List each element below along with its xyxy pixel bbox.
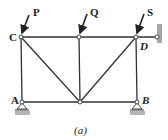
load-arrow-S	[137, 14, 144, 33]
node-bottom-mid	[78, 100, 82, 104]
load-arrow-P	[22, 15, 29, 33]
member-diag-C	[21, 37, 80, 102]
truss-diagram: P Q S C D A B (a)	[0, 0, 168, 140]
load-arrow-Q	[80, 14, 87, 33]
node-label-A: A	[11, 94, 19, 106]
member-diag-D	[80, 37, 136, 102]
wall	[157, 24, 162, 43]
truss-nodes	[19, 35, 159, 104]
node-wall-pin	[155, 35, 159, 39]
load-label-P: P	[33, 6, 40, 18]
load-label-S: S	[147, 6, 153, 18]
member-BD	[136, 37, 137, 102]
node-label-C: C	[9, 31, 17, 43]
node-label-D: D	[139, 40, 148, 52]
node-C	[19, 35, 23, 39]
truss-members	[21, 37, 157, 102]
load-label-Q: Q	[90, 6, 99, 18]
node-A	[20, 100, 24, 104]
figure-caption: (a)	[74, 124, 87, 137]
node-D	[134, 35, 138, 39]
node-label-B: B	[141, 94, 149, 106]
member-vertical-mid	[79, 37, 80, 102]
member-AC	[21, 37, 22, 102]
node-B	[135, 100, 139, 104]
node-top-mid	[77, 35, 81, 39]
